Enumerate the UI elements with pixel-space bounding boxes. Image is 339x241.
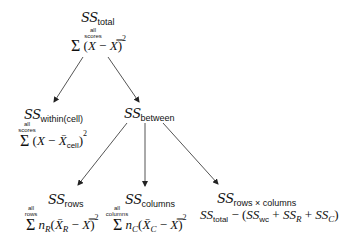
- ss-within-subscript: within(cell): [41, 114, 84, 124]
- ss-term-subscript: wc: [259, 215, 269, 224]
- grand-mean: X̿: [170, 217, 178, 232]
- ss-term: SS: [246, 207, 259, 222]
- var-x: X: [37, 133, 45, 148]
- sigma-symbol: Σ: [71, 37, 80, 54]
- minus: −: [156, 217, 170, 232]
- sigma-symbol: Σ: [26, 216, 35, 233]
- ss-rows-label: SS: [48, 192, 65, 207]
- cell-mean: X̄: [59, 133, 67, 148]
- n-subscript: R: [45, 224, 51, 234]
- exponent: 2: [83, 129, 87, 138]
- grand-mean: X̿: [110, 38, 118, 53]
- ss-term-subscript: C: [328, 214, 334, 224]
- ss-columns-formula: Σ nC(X̄C − X̿)2: [113, 216, 187, 232]
- node-ss-total: SStotal: [81, 11, 115, 24]
- grand-mean: X̿: [82, 217, 90, 232]
- row-mean: X̄: [55, 217, 63, 232]
- node-ss-between: SSbetween: [124, 107, 175, 120]
- exponent: 2: [95, 213, 99, 222]
- ss-interaction-label: SS: [217, 191, 234, 206]
- node-ss-interaction: SSrows × columns: [217, 192, 296, 205]
- arrow-between-to-interaction: [163, 123, 218, 184]
- ss-term-subscript: R: [296, 214, 302, 224]
- n-subscript: C: [132, 224, 138, 234]
- plus: +: [269, 207, 283, 222]
- node-ss-columns: SScolumns: [125, 193, 175, 206]
- paren-close: ): [90, 217, 94, 232]
- minus: −: [96, 38, 110, 53]
- minus: −: [68, 217, 82, 232]
- sigma-symbol: Σ: [20, 132, 29, 149]
- exponent: 2: [183, 213, 187, 222]
- row-mean-subscript: R: [63, 224, 69, 234]
- arrow-total-to-between: [108, 57, 139, 102]
- ss-between-label: SS: [124, 106, 141, 121]
- minus-open: − (: [228, 207, 246, 222]
- cell-mean-subscript: cell: [67, 141, 79, 150]
- ss-total-subscript: total: [98, 17, 115, 27]
- var-x: X: [88, 38, 96, 53]
- ss-total-label: SS: [81, 10, 98, 25]
- ss-columns-subscript: columns: [142, 199, 176, 209]
- ss-between-subscript: between: [141, 113, 175, 123]
- ss-total-formula: Σ (X − X̿)2: [71, 37, 126, 53]
- exponent: 2: [122, 34, 126, 43]
- node-ss-rows: SSrows: [48, 193, 84, 206]
- minus: −: [45, 133, 59, 148]
- node-ss-within: SSwithin(cell): [24, 108, 83, 121]
- ss-term: SS: [315, 207, 328, 222]
- ss-interaction-formula: SStotal − (SSwc + SSR + SSC): [200, 208, 339, 221]
- ss-rows-subscript: rows: [65, 199, 84, 209]
- ss-rows-formula: Σ nR(X̄R − X̿)2: [26, 216, 99, 232]
- ss-term: SS: [283, 207, 296, 222]
- paren-close: ): [178, 217, 182, 232]
- arrow-total-to-within: [54, 57, 83, 102]
- sigma-symbol: Σ: [113, 216, 122, 233]
- ss-term-subscript: total: [213, 215, 228, 224]
- ss-within-label: SS: [24, 107, 41, 122]
- plus: +: [301, 207, 315, 222]
- ss-within-formula: Σ (X − X̄cell)2: [20, 132, 87, 148]
- column-mean-subscript: C: [150, 224, 156, 234]
- ss-term: SS: [200, 207, 213, 222]
- paren-close: ): [334, 207, 338, 222]
